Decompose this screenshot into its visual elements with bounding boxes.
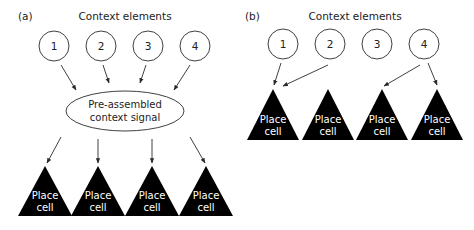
context-element-2: 2 bbox=[86, 31, 116, 61]
context-element-4: 4 bbox=[409, 29, 439, 59]
context-element-number: 4 bbox=[421, 38, 428, 50]
panel-a-label: (a) bbox=[18, 10, 33, 22]
context-element-number: 3 bbox=[374, 38, 381, 50]
place-cell-a3: Place cell bbox=[125, 166, 179, 216]
signal-label-line1: Pre-assembled bbox=[88, 99, 162, 110]
context-element-3: 3 bbox=[362, 29, 392, 59]
place-cell-label-line1: Place bbox=[424, 114, 451, 125]
context-element-1: 1 bbox=[39, 31, 69, 61]
place-cell-label-line2: cell bbox=[36, 202, 53, 213]
place-cell-label-line2: cell bbox=[143, 202, 160, 213]
place-cell-label-line2: cell bbox=[428, 126, 445, 137]
signal-label-line2: context signal bbox=[90, 112, 160, 123]
place-cell-label-line1: Place bbox=[85, 190, 112, 201]
signal-to-cell-arrows bbox=[47, 137, 205, 163]
context-element-1: 1 bbox=[268, 29, 298, 59]
place-cell-label-line2: cell bbox=[89, 202, 106, 213]
context-element-number: 2 bbox=[98, 40, 105, 52]
pre-assembled-context-signal: Pre-assembled context signal bbox=[66, 91, 184, 131]
place-cell-b4: Place cell bbox=[411, 89, 463, 140]
place-cell-a4: Place cell bbox=[179, 166, 233, 216]
place-cell-label-line2: cell bbox=[373, 126, 390, 137]
context-element-3: 3 bbox=[133, 31, 163, 61]
place-cell-a2: Place cell bbox=[71, 166, 125, 216]
context-element-number: 2 bbox=[327, 38, 334, 50]
context-element-2: 2 bbox=[315, 29, 345, 59]
place-cell-label-line2: cell bbox=[264, 126, 281, 137]
place-cell-label-line2: cell bbox=[197, 202, 214, 213]
place-cell-label-line1: Place bbox=[260, 114, 287, 125]
place-cell-label-line1: Place bbox=[193, 190, 220, 201]
place-cell-b1: Place cell bbox=[247, 89, 299, 140]
context-element-number: 1 bbox=[51, 40, 58, 52]
panel-a: (a) Context elements 1 2 3 4 P bbox=[18, 10, 233, 216]
context-element-number: 1 bbox=[280, 38, 287, 50]
place-cell-b3: Place cell bbox=[356, 89, 408, 140]
panel-b: (b) Context elements 1 2 3 4 Place bbox=[245, 10, 463, 140]
context-element-number: 3 bbox=[145, 40, 152, 52]
place-cell-a1: Place cell bbox=[18, 166, 72, 216]
panel-b-label: (b) bbox=[245, 10, 260, 22]
place-cell-label-line2: cell bbox=[319, 126, 336, 137]
place-cell-label-line1: Place bbox=[139, 190, 166, 201]
panel-b-heading: Context elements bbox=[308, 10, 401, 22]
element-to-signal-arrows bbox=[61, 65, 190, 90]
context-element-number: 4 bbox=[192, 40, 199, 52]
element-to-cell-arrows bbox=[274, 63, 437, 86]
context-element-4: 4 bbox=[180, 31, 210, 61]
place-cell-b2: Place cell bbox=[302, 89, 354, 140]
place-cell-label-line1: Place bbox=[32, 190, 59, 201]
place-cell-label-line1: Place bbox=[369, 114, 396, 125]
place-cell-label-line1: Place bbox=[315, 114, 342, 125]
diagram-canvas: (a) Context elements 1 2 3 4 P bbox=[0, 0, 474, 230]
panel-a-heading: Context elements bbox=[78, 10, 171, 22]
